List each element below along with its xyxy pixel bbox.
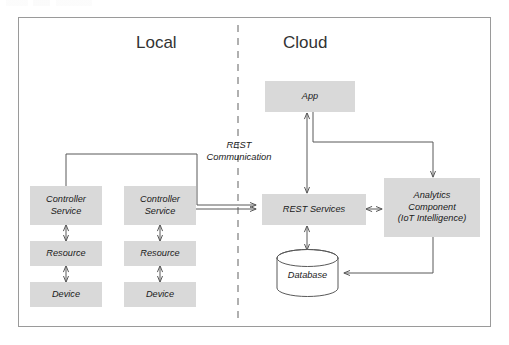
node-database[interactable]: Database (277, 250, 338, 298)
zone-title-cloud: Cloud (283, 33, 327, 53)
device-1-label: Device (50, 289, 82, 300)
node-resource-2[interactable]: Resource (124, 241, 196, 266)
node-device-1[interactable]: Device (30, 282, 102, 307)
node-resource-1[interactable]: Resource (30, 241, 102, 266)
rest-communication-line-2: Communication (183, 151, 295, 163)
clipped-caption-artifact (6, 0, 92, 6)
node-device-2[interactable]: Device (124, 282, 196, 307)
resource-1-label: Resource (44, 248, 87, 259)
node-controller-service-1[interactable]: Controller Service (30, 186, 102, 225)
node-analytics-component[interactable]: Analytics Component (IoT Intelligence) (384, 178, 480, 237)
node-app[interactable]: App (265, 81, 355, 112)
diagram-frame (18, 17, 491, 327)
controller-service-1-line-1: Controller (44, 194, 88, 205)
node-rest-services[interactable]: REST Services (262, 194, 366, 225)
zone-title-local: Local (136, 33, 177, 53)
controller-service-1-line-2: Service (44, 206, 88, 217)
database-label: Database (277, 270, 338, 280)
edge-label-rest-communication: REST Communication (183, 139, 295, 163)
analytics-component-line-1: Analytics (396, 190, 468, 201)
rest-communication-line-1: REST (183, 139, 295, 151)
rest-services-label: REST Services (281, 204, 347, 215)
node-controller-service-2[interactable]: Controller Service (124, 186, 196, 225)
controller-service-2-line-2: Service (138, 206, 182, 217)
analytics-component-line-3: (IoT Intelligence) (396, 213, 468, 224)
resource-2-label: Resource (138, 248, 181, 259)
controller-service-2-line-1: Controller (138, 194, 182, 205)
diagram-canvas: Local Cloud REST Communication Controlle… (0, 0, 509, 345)
analytics-component-line-2: Component (396, 202, 468, 213)
device-2-label: Device (144, 289, 176, 300)
app-label: App (300, 91, 320, 102)
